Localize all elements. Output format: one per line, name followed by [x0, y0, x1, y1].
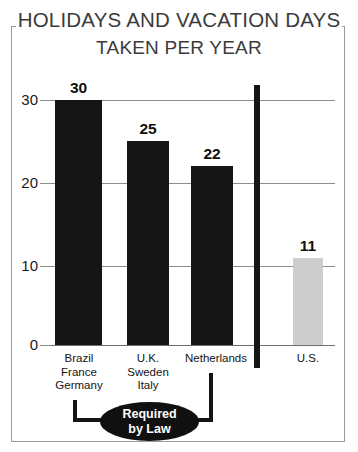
bar-value-us: 11	[288, 237, 328, 255]
tick-dash-30	[40, 100, 50, 101]
category-label-brazil-france-germany: Brazil France Germany	[40, 352, 118, 393]
title-line-2-row: TAKEN PER YEAR	[0, 35, 358, 61]
required-by-law-callout: Required by Law	[100, 402, 199, 441]
category-label-us: U.S.	[278, 352, 338, 366]
page-title-line-2: TAKEN PER YEAR	[96, 37, 262, 58]
y-tick-label-30: 30	[12, 91, 38, 108]
tick-dash-10	[40, 266, 50, 267]
category-label-line-3: Germany	[40, 379, 118, 393]
callout-text: Required by Law	[122, 407, 176, 436]
plot-area: 30 20 10 0 30 25 22 11 Brazil France Ger…	[0, 0, 358, 452]
tick-dash-0	[40, 345, 50, 346]
category-label-line-2: Sweden	[112, 366, 184, 380]
y-tick-label-10: 10	[12, 257, 38, 274]
bar-value-netherlands: 22	[191, 145, 233, 163]
bar-brazil-france-germany[interactable]	[55, 100, 102, 345]
category-label-line-1: U.S.	[278, 352, 338, 366]
category-label-uk-sweden-italy: U.K. Sweden Italy	[112, 352, 184, 393]
group-divider	[254, 85, 260, 368]
callout-text-line-1: Required	[122, 407, 176, 422]
category-label-netherlands: Netherlands	[180, 352, 252, 366]
bar-value-brazil-france-germany: 30	[55, 79, 102, 97]
title-line-1-row: HOLIDAYS AND VACATION DAYS	[0, 7, 358, 32]
y-tick-label-20: 20	[12, 174, 38, 191]
category-label-line-1: Netherlands	[180, 352, 252, 366]
bracket-right-leg	[209, 373, 213, 422]
bar-value-uk-sweden-italy: 25	[127, 120, 169, 138]
bar-netherlands[interactable]	[191, 166, 233, 345]
bar-uk-sweden-italy[interactable]	[127, 141, 169, 345]
axis-baseline	[45, 345, 335, 346]
category-label-line-2: France	[40, 366, 118, 380]
category-label-line-1: Brazil	[40, 352, 118, 366]
chart-page: HOLIDAYS AND VACATION DAYS TAKEN PER YEA…	[0, 0, 358, 452]
category-label-line-1: U.K.	[112, 352, 184, 366]
callout-text-line-2: by Law	[122, 422, 176, 437]
category-label-line-3: Italy	[112, 379, 184, 393]
y-tick-label-0: 0	[12, 336, 38, 353]
bar-us[interactable]	[293, 258, 323, 345]
tick-dash-20	[40, 183, 50, 184]
page-title-line-1: HOLIDAYS AND VACATION DAYS	[16, 7, 343, 32]
